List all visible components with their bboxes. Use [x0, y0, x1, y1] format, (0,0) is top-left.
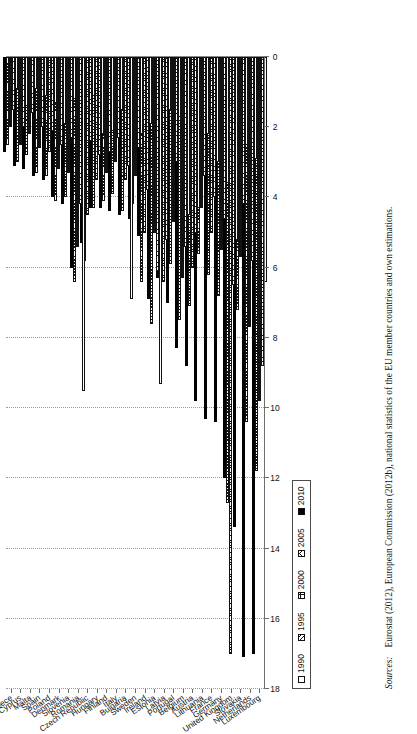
category-tick — [125, 689, 126, 693]
category-tick — [240, 689, 241, 693]
sources-note: Sources:Eurostat (2012), European Commis… — [384, 29, 394, 689]
legend-item: 2000 — [297, 570, 306, 599]
category-tick — [106, 689, 107, 693]
category-tick — [145, 689, 146, 693]
value-tick-label: 14 — [262, 544, 288, 554]
bar — [15, 57, 18, 89]
bar — [245, 57, 248, 145]
category-tick — [87, 689, 88, 693]
legend-swatch-icon — [298, 676, 305, 683]
category-tick — [259, 689, 260, 693]
category-tick — [97, 689, 98, 693]
legend-swatch-icon — [298, 550, 305, 557]
legend-label: 2000 — [297, 570, 306, 589]
bar — [206, 57, 209, 134]
bar — [82, 57, 85, 391]
bar — [187, 57, 190, 215]
value-tick-label: 18 — [262, 684, 288, 694]
category-tick — [39, 689, 40, 693]
bar — [92, 57, 95, 96]
category-tick — [173, 689, 174, 693]
category-tick — [221, 689, 222, 693]
bar — [197, 57, 200, 208]
category-tick — [183, 689, 184, 693]
category-tick — [116, 689, 117, 693]
legend-swatch-icon — [298, 634, 305, 641]
category-tick — [250, 689, 251, 693]
bar — [130, 57, 133, 299]
value-tick-label: 2 — [262, 122, 288, 132]
sources-text: Eurostat (2012), European Commission (20… — [384, 207, 394, 648]
bar — [63, 57, 66, 124]
bar — [54, 57, 57, 103]
legend-item: 2010 — [297, 486, 306, 515]
category-tick — [202, 689, 203, 693]
category-tick — [192, 689, 193, 693]
axis-line — [264, 57, 265, 689]
bar — [216, 57, 219, 162]
chart-area: LuxembourgNetherlandsSlovakiaUnited King… — [6, 57, 282, 689]
legend-item: 2005 — [297, 528, 306, 557]
sources-label: Sources: — [384, 657, 394, 689]
value-tick-label: 10 — [262, 403, 288, 413]
bar — [226, 57, 229, 183]
category-tick — [154, 689, 155, 693]
category-tick — [164, 689, 165, 693]
value-tick-label: 0 — [262, 52, 288, 62]
legend-label: 2010 — [297, 486, 306, 505]
category-tick — [49, 689, 50, 693]
legend-item: 1995 — [297, 612, 306, 641]
category-tick — [68, 689, 69, 693]
bar — [159, 57, 162, 384]
bar — [44, 57, 47, 96]
bar — [235, 57, 238, 240]
bar — [254, 57, 257, 159]
legend-item: 1990 — [297, 654, 306, 683]
category-tick — [78, 689, 79, 693]
legend-swatch-icon — [298, 508, 305, 515]
category-tick — [231, 689, 232, 693]
legend-label: 2005 — [297, 528, 306, 547]
value-tick-label: 6 — [262, 263, 288, 273]
value-axis: 024681012141618 — [264, 57, 282, 689]
legend-swatch-icon — [298, 592, 305, 599]
plot-region: LuxembourgNetherlandsSlovakiaUnited King… — [6, 57, 264, 689]
value-tick-label: 12 — [262, 473, 288, 483]
bar — [149, 57, 152, 124]
bar — [25, 57, 28, 106]
bar-group — [3, 57, 18, 689]
value-tick-label: 4 — [262, 192, 288, 202]
category-tick — [59, 689, 60, 693]
bar — [178, 57, 181, 117]
legend-label: 1990 — [297, 654, 306, 673]
bar — [120, 57, 123, 110]
chart-legend: 19901995200020052010 — [292, 480, 311, 689]
legend-label: 1995 — [297, 612, 306, 631]
bar — [111, 57, 114, 131]
value-tick-label: 16 — [262, 614, 288, 624]
bar — [101, 57, 104, 134]
category-tick — [135, 689, 136, 693]
category-tick — [211, 689, 212, 693]
category-tick — [11, 689, 12, 693]
value-tick-label: 8 — [262, 333, 288, 343]
bar — [34, 57, 37, 89]
bar — [73, 57, 76, 99]
bar — [168, 57, 171, 110]
bar — [140, 57, 143, 134]
category-tick — [20, 689, 21, 693]
category-tick — [30, 689, 31, 693]
